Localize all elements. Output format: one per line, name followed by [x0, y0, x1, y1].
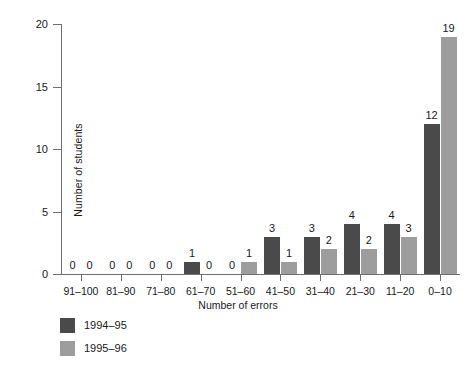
y-tick — [53, 24, 61, 25]
bar-group: 32 — [304, 24, 337, 274]
bar-value-label: 1 — [238, 248, 260, 259]
bar — [241, 262, 257, 275]
bar — [344, 224, 360, 274]
bar-value-label: 0 — [118, 260, 140, 271]
bar-value-label: 0 — [198, 260, 220, 271]
x-tick — [320, 274, 321, 281]
plot-area: Number of students 000000100131324243121… — [61, 24, 460, 274]
y-tick — [53, 87, 61, 88]
bar-value-label: 0 — [78, 260, 100, 271]
legend-swatch — [60, 341, 75, 356]
bar-value-label: 4 — [381, 210, 403, 221]
x-tick — [121, 274, 122, 281]
x-tick-label: 0–10 — [410, 285, 470, 297]
bar-value-label: 3 — [301, 223, 323, 234]
legend-label: 1994–95 — [84, 320, 127, 331]
bar — [281, 262, 297, 275]
bar-value-label: 3 — [261, 223, 283, 234]
bar-group: 00 — [104, 24, 137, 274]
bar-value-label: 1 — [181, 248, 203, 259]
y-tick — [53, 149, 61, 150]
legend-item: 1994–95 — [60, 316, 127, 335]
bar-value-label: 0 — [158, 260, 180, 271]
bar-value-label: 3 — [398, 223, 420, 234]
x-axis-title: Number of errors — [0, 299, 476, 311]
legend-label: 1995–96 — [84, 343, 127, 354]
legend-item: 1995–96 — [60, 339, 127, 358]
bar-value-label: 2 — [318, 235, 340, 246]
bar-value-label: 1 — [278, 248, 300, 259]
legend: 1994–951995–96 — [60, 316, 127, 362]
bar-value-label: 19 — [438, 23, 460, 34]
y-tick-label: 15 — [8, 82, 48, 93]
legend-swatch — [60, 318, 75, 333]
bar-group: 1219 — [424, 24, 457, 274]
bar — [321, 249, 337, 274]
x-tick — [280, 274, 281, 281]
x-tick — [360, 274, 361, 281]
y-tick-label: 10 — [8, 144, 48, 155]
bar-group: 00 — [144, 24, 177, 274]
bar-value-label: 0 — [221, 260, 243, 271]
bar-group: 00 — [64, 24, 97, 274]
bar-value-label: 12 — [421, 110, 443, 121]
x-tick — [400, 274, 401, 281]
bar-value-label: 4 — [341, 210, 363, 221]
x-tick — [161, 274, 162, 281]
bar — [441, 37, 457, 275]
bar-group: 01 — [224, 24, 257, 274]
x-tick — [241, 274, 242, 281]
y-tick-label: 5 — [8, 207, 48, 218]
bar-group: 10 — [184, 24, 217, 274]
bar-group: 31 — [264, 24, 297, 274]
y-tick-label: 0 — [8, 269, 48, 280]
y-tick — [53, 274, 61, 275]
bar — [424, 124, 440, 274]
bar-value-label: 2 — [358, 235, 380, 246]
x-tick — [201, 274, 202, 281]
bar-chart-figure: 05101520 Number of students 000000100131… — [0, 0, 476, 378]
bar-group: 43 — [384, 24, 417, 274]
x-tick — [440, 274, 441, 281]
bar-group: 42 — [344, 24, 377, 274]
y-tick — [53, 212, 61, 213]
y-tick-label: 20 — [8, 19, 48, 30]
bar — [361, 249, 377, 274]
x-tick — [81, 274, 82, 281]
bar — [401, 237, 417, 275]
